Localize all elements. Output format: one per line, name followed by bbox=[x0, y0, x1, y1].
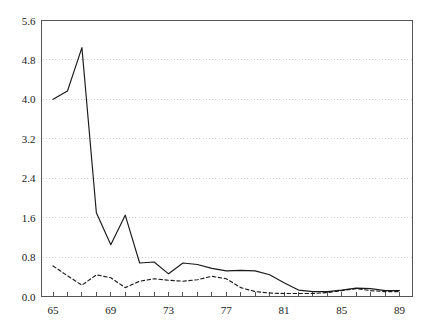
x-tick-label-69: 69 bbox=[105, 304, 117, 316]
x-tick-label-73: 73 bbox=[163, 304, 175, 316]
chart-background bbox=[0, 0, 425, 328]
x-tick-label-89: 89 bbox=[394, 304, 406, 316]
chart-container: 0.00.81.62.43.24.04.85.6 65697377818589 bbox=[0, 0, 425, 328]
y-tick-label-4.0: 4.0 bbox=[22, 93, 36, 105]
x-tick-label-65: 65 bbox=[48, 304, 60, 316]
x-tick-label-81: 81 bbox=[279, 304, 290, 316]
y-tick-label-3.2: 3.2 bbox=[22, 133, 36, 145]
y-tick-label-0.0: 0.0 bbox=[22, 291, 36, 303]
y-tick-label-5.6: 5.6 bbox=[22, 15, 36, 27]
line-chart: 0.00.81.62.43.24.04.85.6 65697377818589 bbox=[0, 0, 425, 328]
x-tick-label-85: 85 bbox=[336, 304, 348, 316]
y-tick-label-1.6: 1.6 bbox=[22, 212, 36, 224]
y-tick-label-2.4: 2.4 bbox=[22, 172, 36, 184]
x-tick-label-77: 77 bbox=[221, 304, 233, 316]
y-tick-label-0.8: 0.8 bbox=[22, 251, 36, 263]
y-tick-label-4.8: 4.8 bbox=[22, 54, 36, 66]
